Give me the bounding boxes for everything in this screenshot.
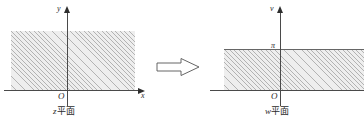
y-axis-arrowhead-icon <box>64 6 70 13</box>
w-plane-caption-suffix: 平面 <box>271 106 289 116</box>
v-axis-arrowhead-icon <box>277 6 283 13</box>
w-plane-panel: u v O π w平面 <box>182 0 364 127</box>
z-plane-caption: z平面 <box>53 107 75 116</box>
w-plane-u-axis <box>210 90 364 91</box>
z-plane-y-axis <box>67 10 68 106</box>
y-axis-label: y <box>57 5 61 13</box>
w-plane-pi-boundary-line <box>224 49 364 50</box>
z-plane-caption-suffix: 平面 <box>57 106 75 116</box>
z-plane-hatched-region <box>11 31 135 90</box>
x-axis-label: x <box>141 92 145 100</box>
v-axis-label: v <box>270 5 274 13</box>
conformal-mapping-figure: x y O z平面 u v O π w平面 <box>0 0 364 127</box>
z-plane-panel: x y O z平面 <box>0 0 182 127</box>
w-plane-hatched-strip <box>224 50 364 90</box>
w-plane-pi-tick-label: π <box>271 42 275 50</box>
z-plane-x-axis <box>4 90 140 91</box>
w-plane-origin-label: O <box>271 92 278 101</box>
z-plane-origin-label: O <box>58 92 65 101</box>
w-plane-v-axis <box>280 10 281 106</box>
w-plane-caption: w平面 <box>265 107 289 116</box>
